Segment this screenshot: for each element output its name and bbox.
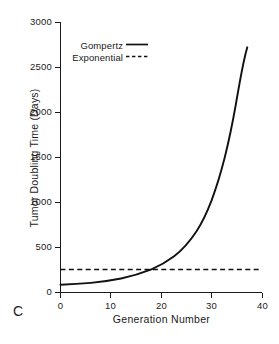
y-tick-label-3000: 3000: [8, 16, 52, 27]
series-line-gompertz: [61, 47, 248, 284]
x-tick-label-30: 30: [199, 300, 224, 311]
x-tick-label-20: 20: [149, 300, 174, 311]
y-tick-label-0: 0: [8, 286, 52, 297]
x-tick-label-0: 0: [48, 300, 73, 311]
legend-label-exponential: Exponential: [55, 52, 123, 63]
chart-figure: 3000 2500 2000 1500 1000 500 0 0 10 20 3…: [0, 0, 279, 344]
y-axis-title: Tumor Doubling Time (Days): [28, 63, 40, 253]
y-axis-ticks: [55, 23, 61, 293]
x-axis-title: Generation Number: [60, 313, 263, 325]
x-tick-label-40: 40: [250, 300, 275, 311]
legend-label-gompertz: Gompertz: [63, 40, 123, 51]
x-tick-label-10: 10: [98, 300, 123, 311]
x-axis-ticks: [61, 293, 263, 299]
panel-label: C: [13, 303, 23, 319]
